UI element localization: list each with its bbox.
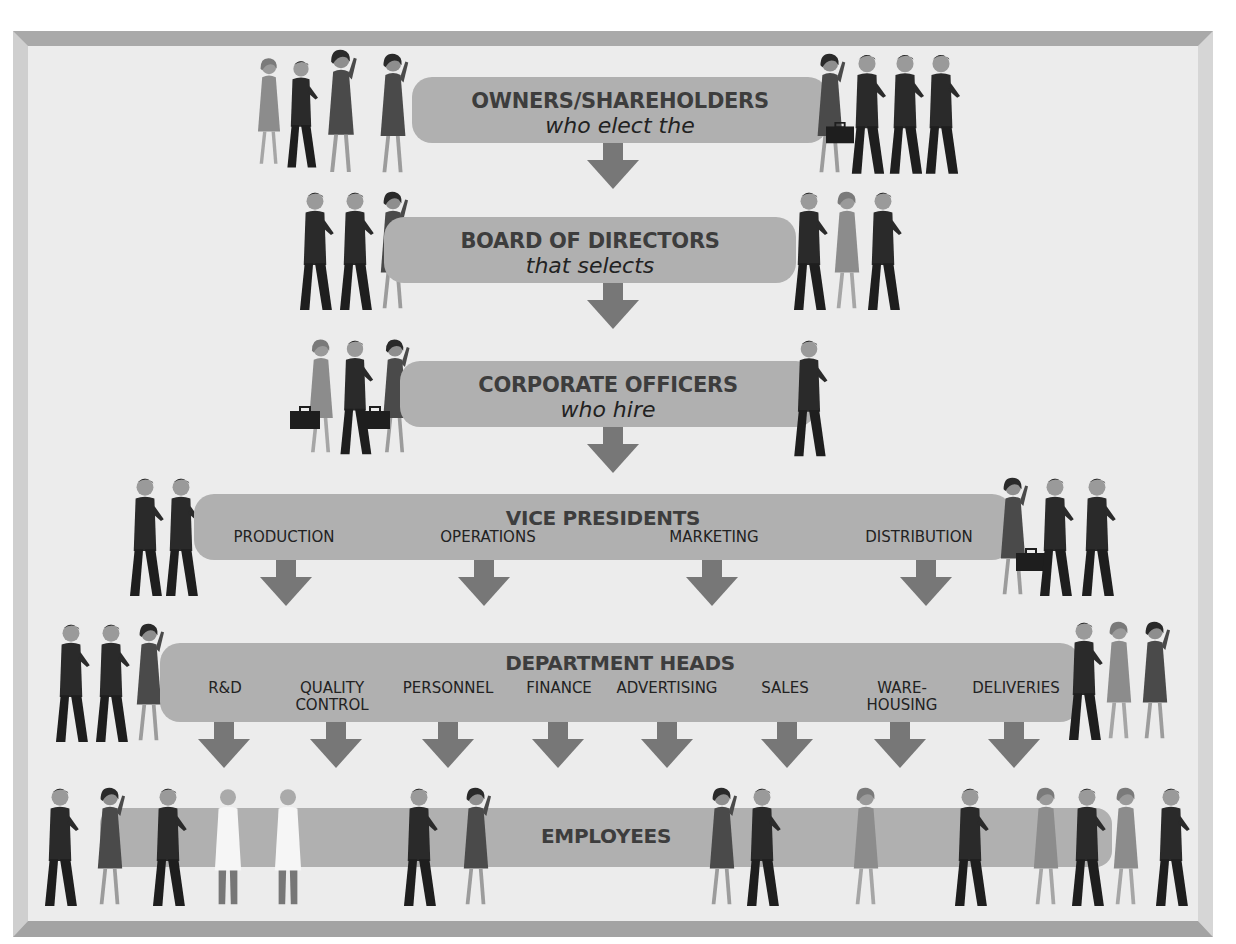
dept-unit-sales: SALES bbox=[750, 680, 820, 697]
person-icon bbox=[1066, 786, 1108, 908]
vp-unit-production: PRODUCTION bbox=[222, 529, 346, 546]
person-icon bbox=[92, 622, 130, 744]
person-icon bbox=[90, 786, 130, 908]
tier-owners-bar: OWNERS/SHAREHOLDERS who elect the bbox=[412, 77, 828, 143]
person-icon bbox=[140, 786, 196, 908]
person-icon bbox=[846, 786, 886, 908]
dept-unit-quality-control: QUALITYCONTROL bbox=[282, 680, 382, 714]
frame-bevel-bottom bbox=[13, 921, 1213, 937]
down-arrow-icon bbox=[422, 722, 474, 768]
person-icon bbox=[810, 52, 850, 176]
person-icon bbox=[296, 190, 334, 312]
person-icon bbox=[700, 786, 744, 908]
down-arrow-icon bbox=[900, 560, 952, 606]
tier-board-subtitle: that selects bbox=[384, 253, 796, 278]
person-icon bbox=[950, 786, 990, 908]
person-icon bbox=[1106, 786, 1146, 908]
person-icon bbox=[302, 338, 340, 456]
briefcase-icon bbox=[360, 406, 390, 430]
tier-vps-title: VICE PRESIDENTS bbox=[194, 506, 1012, 530]
person-icon bbox=[1036, 476, 1074, 598]
person-icon bbox=[398, 786, 440, 908]
down-arrow-icon bbox=[198, 722, 250, 768]
person-icon bbox=[828, 190, 866, 312]
down-arrow-icon bbox=[532, 722, 584, 768]
dept-unit-rd: R&D bbox=[190, 680, 260, 697]
vp-unit-operations: OPERATIONS bbox=[426, 529, 550, 546]
briefcase-icon bbox=[290, 406, 320, 430]
frame-bevel-left bbox=[13, 31, 28, 937]
person-icon bbox=[1134, 620, 1176, 742]
vp-unit-marketing: MARKETING bbox=[652, 529, 776, 546]
frame-bevel-top bbox=[13, 31, 1213, 46]
person-icon bbox=[336, 338, 374, 456]
person-icon bbox=[452, 786, 500, 908]
tier-vps-bar: VICE PRESIDENTS PRODUCTION OPERATIONS MA… bbox=[194, 494, 1012, 560]
down-arrow-icon bbox=[587, 143, 639, 189]
person-icon bbox=[372, 52, 414, 176]
person-icon bbox=[284, 52, 318, 176]
person-icon bbox=[52, 622, 90, 744]
person-icon bbox=[886, 52, 924, 176]
person-icon bbox=[206, 786, 250, 908]
person-icon bbox=[262, 786, 314, 908]
tier-dept-bar: DEPARTMENT HEADS R&D QUALITYCONTROL PERS… bbox=[160, 643, 1080, 722]
down-arrow-icon bbox=[260, 560, 312, 606]
person-icon bbox=[994, 476, 1032, 598]
person-icon bbox=[790, 190, 828, 312]
person-icon bbox=[790, 338, 828, 458]
tier-board-title: BOARD OF DIRECTORS bbox=[384, 229, 796, 253]
person-icon bbox=[320, 48, 362, 176]
person-icon bbox=[40, 786, 80, 908]
person-icon bbox=[742, 786, 782, 908]
tier-owners-title: OWNERS/SHAREHOLDERS bbox=[412, 89, 828, 113]
person-icon bbox=[252, 48, 286, 176]
dept-unit-warehousing: WARE-HOUSING bbox=[852, 680, 952, 714]
dept-unit-deliveries: DELIVERIES bbox=[960, 680, 1072, 697]
down-arrow-icon bbox=[587, 283, 639, 329]
down-arrow-icon bbox=[988, 722, 1040, 768]
down-arrow-icon bbox=[874, 722, 926, 768]
person-icon bbox=[1064, 620, 1104, 742]
tier-officers-subtitle: who hire bbox=[400, 397, 816, 422]
person-icon bbox=[1100, 620, 1138, 742]
tier-dept-title: DEPARTMENT HEADS bbox=[160, 651, 1080, 675]
person-icon bbox=[1150, 786, 1192, 908]
down-arrow-icon bbox=[641, 722, 693, 768]
vp-unit-distribution: DISTRIBUTION bbox=[852, 529, 986, 546]
tier-officers-title: CORPORATE OFFICERS bbox=[400, 373, 816, 397]
down-arrow-icon bbox=[310, 722, 362, 768]
dept-unit-finance: FINANCE bbox=[516, 680, 602, 697]
person-icon bbox=[1026, 786, 1066, 908]
person-icon bbox=[336, 190, 374, 312]
person-icon bbox=[1078, 476, 1116, 598]
tier-officers-bar: CORPORATE OFFICERS who hire bbox=[400, 361, 816, 427]
down-arrow-icon bbox=[587, 427, 639, 473]
down-arrow-icon bbox=[686, 560, 738, 606]
dept-unit-advertising: ADVERTISING bbox=[604, 680, 730, 697]
down-arrow-icon bbox=[761, 722, 813, 768]
tier-owners-subtitle: who elect the bbox=[412, 113, 828, 138]
person-icon bbox=[848, 52, 886, 176]
person-icon bbox=[126, 476, 164, 598]
person-icon bbox=[922, 52, 960, 176]
down-arrow-icon bbox=[458, 560, 510, 606]
frame-bevel-right bbox=[1198, 31, 1213, 937]
tier-board-bar: BOARD OF DIRECTORS that selects bbox=[384, 217, 796, 283]
person-icon bbox=[864, 190, 902, 312]
dept-unit-personnel: PERSONNEL bbox=[392, 680, 504, 697]
